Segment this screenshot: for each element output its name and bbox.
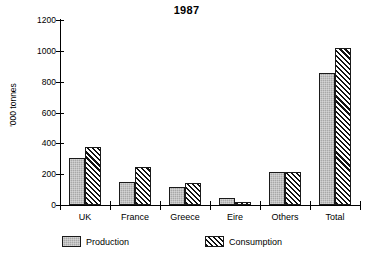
bar-others-consumption: [285, 172, 301, 205]
legend-item-consumption: Consumption: [205, 236, 282, 247]
y-tick-mark: [56, 174, 64, 175]
x-axis-category-label: France: [110, 212, 160, 222]
bar-eire-production: [219, 198, 235, 205]
bar-total-production: [319, 73, 335, 205]
x-axis-category-label: Others: [260, 212, 310, 222]
y-tick-mark: [56, 51, 64, 52]
x-axis-category-label: UK: [60, 212, 110, 222]
y-tick-mark: [56, 143, 64, 144]
legend-swatch-production-icon: [62, 236, 81, 247]
y-tick-label: 0: [28, 201, 56, 209]
x-tick-mark: [210, 201, 211, 210]
y-tick-label: 200: [28, 170, 56, 178]
y-tick-label: 1200: [28, 16, 56, 24]
y-tick-mark: [56, 20, 64, 21]
y-tick-mark: [56, 113, 64, 114]
x-tick-mark: [360, 201, 361, 210]
y-tick-label: 1000: [28, 47, 56, 55]
bar-france-production: [119, 182, 135, 205]
y-tick-label: 800: [28, 78, 56, 86]
x-tick-mark: [60, 201, 61, 210]
x-tick-mark: [260, 201, 261, 210]
x-axis-category-label: Total: [310, 212, 360, 222]
y-axis-title: '000 tonnes: [8, 70, 18, 140]
legend-label-consumption: Consumption: [229, 237, 282, 247]
bar-uk-production: [69, 158, 85, 205]
bar-eire-consumption: [235, 202, 251, 205]
bar-chart: 1987 '000 tonnes 020040060080010001200 U…: [0, 0, 373, 260]
x-tick-mark: [310, 201, 311, 210]
bar-total-consumption: [335, 48, 351, 205]
x-axis-category-label: Eire: [210, 212, 260, 222]
bar-uk-consumption: [85, 147, 101, 205]
x-tick-mark: [110, 201, 111, 210]
x-tick-mark: [160, 201, 161, 210]
y-tick-label: 400: [28, 139, 56, 147]
legend-label-production: Production: [86, 237, 129, 247]
x-axis-category-label: Greece: [160, 212, 210, 222]
y-tick-mark: [56, 82, 64, 83]
bar-france-consumption: [135, 167, 151, 205]
bar-others-production: [269, 172, 285, 205]
legend-swatch-consumption-icon: [205, 236, 224, 247]
y-tick-label: 600: [28, 109, 56, 117]
bar-greece-consumption: [185, 183, 201, 205]
legend-item-production: Production: [62, 236, 129, 247]
bar-greece-production: [169, 187, 185, 205]
